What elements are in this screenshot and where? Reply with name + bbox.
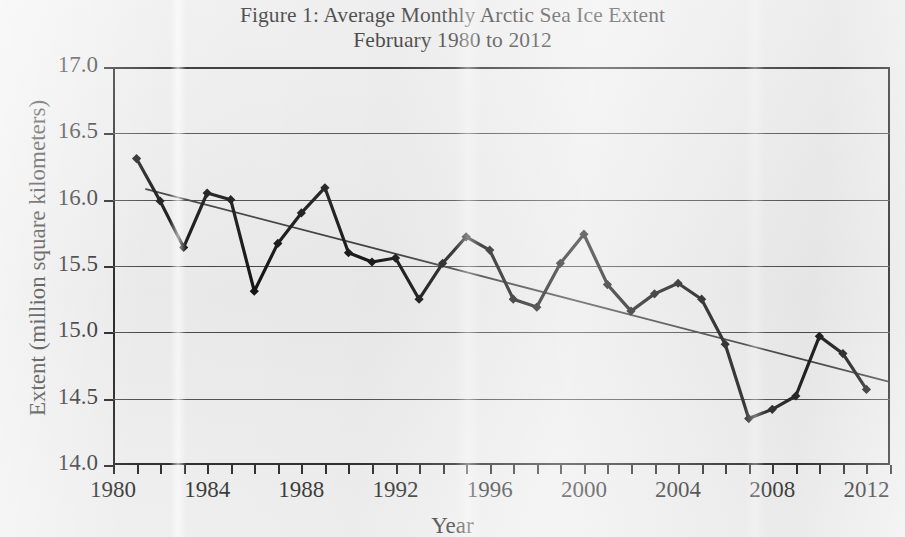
- x-tick-2005: [702, 465, 704, 474]
- x-tick-1992: [396, 465, 398, 474]
- y-tick-16.5: [104, 133, 113, 135]
- x-tick-1993: [419, 465, 421, 474]
- figure-title-line-2: February 1980 to 2012: [0, 28, 905, 53]
- x-tick-1980: [113, 465, 115, 474]
- y-tick-label-17.0: 17.0: [28, 52, 98, 78]
- x-tick-1981: [137, 465, 139, 474]
- x-tick-1984: [207, 465, 209, 474]
- x-tick-1985: [231, 465, 233, 474]
- x-tick-2010: [819, 465, 821, 474]
- y-tick-label-16.0: 16.0: [28, 185, 98, 211]
- x-tick-1994: [443, 465, 445, 474]
- x-tick-2003: [655, 465, 657, 474]
- y-tick-label-15.0: 15.0: [28, 317, 98, 343]
- x-tick-2013: [890, 465, 892, 474]
- x-tick-label-1980: 1980: [78, 477, 148, 503]
- x-tick-1999: [560, 465, 562, 474]
- data-point-2007: [744, 414, 753, 423]
- y-tick-17.0: [104, 67, 113, 69]
- y-tick-14.0: [104, 465, 113, 467]
- x-tick-2006: [725, 465, 727, 474]
- x-tick-label-1984: 1984: [172, 477, 242, 503]
- x-axis-label: Year: [0, 513, 905, 537]
- x-tick-label-1996: 1996: [455, 477, 525, 503]
- x-tick-2002: [631, 465, 633, 474]
- x-tick-1982: [160, 465, 162, 474]
- x-tick-1995: [466, 465, 468, 474]
- x-tick-label-1992: 1992: [361, 477, 431, 503]
- x-tick-label-2000: 2000: [549, 477, 619, 503]
- x-tick-1996: [490, 465, 492, 474]
- x-tick-1987: [278, 465, 280, 474]
- x-tick-1988: [301, 465, 303, 474]
- data-point-markers: [132, 154, 871, 423]
- y-tick-15.0: [104, 332, 113, 334]
- x-tick-label-2008: 2008: [737, 477, 807, 503]
- x-tick-2001: [607, 465, 609, 474]
- x-tick-2012: [866, 465, 868, 474]
- x-tick-1998: [537, 465, 539, 474]
- data-point-1985: [226, 195, 235, 204]
- data-point-1984: [203, 188, 212, 197]
- x-tick-1990: [348, 465, 350, 474]
- x-tick-2009: [796, 465, 798, 474]
- x-tick-label-1988: 1988: [266, 477, 336, 503]
- x-tick-label-2012: 2012: [831, 477, 901, 503]
- y-tick-label-15.5: 15.5: [28, 251, 98, 277]
- y-tick-label-14.0: 14.0: [28, 450, 98, 476]
- y-tick-16.0: [104, 200, 113, 202]
- x-tick-1997: [513, 465, 515, 474]
- x-tick-2011: [843, 465, 845, 474]
- figure-title-line-1: Figure 1: Average Monthly Arctic Sea Ice…: [0, 3, 905, 28]
- figure-title: Figure 1: Average Monthly Arctic Sea Ice…: [0, 3, 905, 53]
- x-tick-2000: [584, 465, 586, 474]
- x-tick-1991: [372, 465, 374, 474]
- data-series-svg: [113, 67, 890, 465]
- y-tick-14.5: [104, 399, 113, 401]
- plot-area: [113, 67, 890, 465]
- x-tick-1989: [325, 465, 327, 474]
- y-tick-15.5: [104, 266, 113, 268]
- x-tick-2008: [772, 465, 774, 474]
- data-point-1991: [367, 257, 376, 266]
- y-tick-label-14.5: 14.5: [28, 384, 98, 410]
- x-tick-label-2004: 2004: [643, 477, 713, 503]
- y-tick-label-16.5: 16.5: [28, 118, 98, 144]
- x-tick-1986: [254, 465, 256, 474]
- x-tick-1983: [184, 465, 186, 474]
- x-tick-2004: [678, 465, 680, 474]
- sea-ice-extent-line: [137, 159, 867, 419]
- x-tick-2007: [749, 465, 751, 474]
- data-point-1990: [344, 248, 353, 257]
